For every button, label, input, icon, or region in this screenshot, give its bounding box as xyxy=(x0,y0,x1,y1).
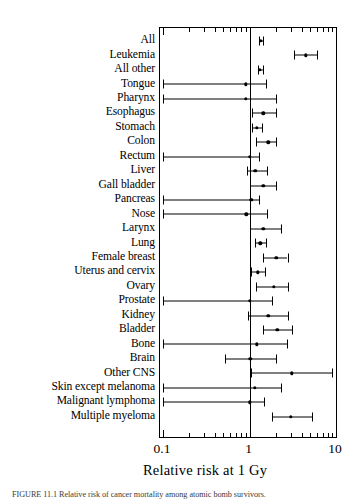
point-estimate-marker xyxy=(267,314,270,317)
axis-tick xyxy=(250,430,251,437)
interval-row xyxy=(160,136,336,148)
point-estimate-marker xyxy=(259,39,262,42)
point-estimate-marker xyxy=(289,415,292,418)
row-label: Other CNS xyxy=(0,367,155,379)
confidence-interval-line xyxy=(163,344,287,345)
interval-cap-low xyxy=(256,282,257,291)
interval-cap-low xyxy=(272,412,273,421)
interval-cap-high xyxy=(267,210,268,219)
interval-cap-truncated xyxy=(163,297,164,306)
axis-tick xyxy=(223,433,224,437)
x-axis-title: Relative risk at 1 Gy xyxy=(0,462,355,479)
row-label: Gall bladder xyxy=(0,179,155,191)
interval-cap-low xyxy=(252,109,253,118)
interval-cap-low xyxy=(294,51,295,60)
row-label: Leukemia xyxy=(0,49,155,61)
interval-row xyxy=(160,310,336,322)
x-axis-tick-labels: 0.1110 xyxy=(159,441,337,457)
interval-cap-high xyxy=(332,369,333,378)
point-estimate-marker xyxy=(248,401,251,404)
interval-cap-high xyxy=(288,253,289,262)
point-estimate-marker xyxy=(304,54,307,57)
confidence-interval-line xyxy=(163,84,266,85)
axis-tick xyxy=(241,433,242,437)
interval-row xyxy=(160,367,336,379)
interval-cap-truncated xyxy=(163,94,164,103)
interval-cap-high xyxy=(263,37,264,46)
point-estimate-marker xyxy=(275,256,278,259)
point-estimate-marker xyxy=(262,184,265,187)
axis-tick xyxy=(323,28,324,32)
point-estimate-marker xyxy=(262,227,265,230)
point-estimate-marker xyxy=(255,126,258,129)
confidence-interval-line xyxy=(163,387,281,388)
row-label: Colon xyxy=(0,135,155,147)
confidence-interval-line xyxy=(247,171,267,172)
axis-tick xyxy=(332,433,333,437)
axis-tick xyxy=(332,28,333,32)
row-label: Larynx xyxy=(0,222,155,234)
interval-cap-truncated xyxy=(163,80,164,89)
x-tick-label: 0.1 xyxy=(154,441,171,456)
confidence-interval-line xyxy=(163,98,276,99)
axis-tick xyxy=(291,28,292,32)
row-label: All xyxy=(0,34,155,46)
axis-tick xyxy=(215,28,216,32)
axis-tick xyxy=(328,433,329,437)
interval-cap-high xyxy=(266,80,267,89)
interval-cap-high xyxy=(287,340,288,349)
interval-cap-high xyxy=(276,138,277,147)
interval-cap-high xyxy=(259,195,260,204)
interval-cap-low xyxy=(256,138,257,147)
interval-row xyxy=(160,295,336,307)
interval-cap-high xyxy=(263,65,264,74)
interval-row xyxy=(160,382,336,394)
confidence-interval-line xyxy=(163,214,267,215)
axis-tick xyxy=(236,433,237,437)
interval-row xyxy=(160,266,336,278)
interval-cap-low xyxy=(248,311,249,320)
interval-cap-high xyxy=(317,51,318,60)
axis-tick xyxy=(189,28,190,32)
interval-cap-high xyxy=(259,152,260,161)
interval-row xyxy=(160,223,336,235)
interval-cap-low xyxy=(263,326,264,335)
axis-tick xyxy=(310,28,311,32)
point-estimate-marker xyxy=(248,299,251,302)
interval-cap-low xyxy=(252,123,253,132)
interval-cap-low xyxy=(251,369,252,378)
axis-tick xyxy=(236,28,237,32)
interval-row xyxy=(160,93,336,105)
axis-tick xyxy=(336,430,337,437)
interval-cap-high xyxy=(272,297,273,306)
interval-cap-truncated xyxy=(163,383,164,392)
point-estimate-marker xyxy=(267,140,270,143)
axis-tick xyxy=(310,433,311,437)
figure-caption: FIGURE 11.1 Relative risk of cancer mort… xyxy=(12,490,342,501)
row-label: Rectum xyxy=(0,150,155,162)
point-estimate-marker xyxy=(244,83,247,86)
interval-row xyxy=(160,338,336,350)
axis-tick xyxy=(246,28,247,32)
interval-cap-high xyxy=(276,109,277,118)
interval-row xyxy=(160,252,336,264)
interval-cap-high xyxy=(262,123,263,132)
row-label: Bladder xyxy=(0,323,155,335)
axis-tick xyxy=(276,28,277,32)
row-label: Ovary xyxy=(0,280,155,292)
row-label: Prostate xyxy=(0,294,155,306)
interval-cap-high xyxy=(267,167,268,176)
row-label: Stomach xyxy=(0,121,155,133)
interval-row xyxy=(160,353,336,365)
row-label: Pancreas xyxy=(0,193,155,205)
axis-tick xyxy=(276,433,277,437)
point-estimate-marker xyxy=(253,386,256,389)
axis-tick xyxy=(241,28,242,32)
interval-row xyxy=(160,208,336,220)
interval-cap-truncated xyxy=(163,340,164,349)
interval-cap-high xyxy=(266,239,267,248)
axis-tick xyxy=(328,28,329,32)
row-label: All other xyxy=(0,63,155,75)
confidence-interval-line xyxy=(250,228,281,229)
axis-tick xyxy=(189,433,190,437)
